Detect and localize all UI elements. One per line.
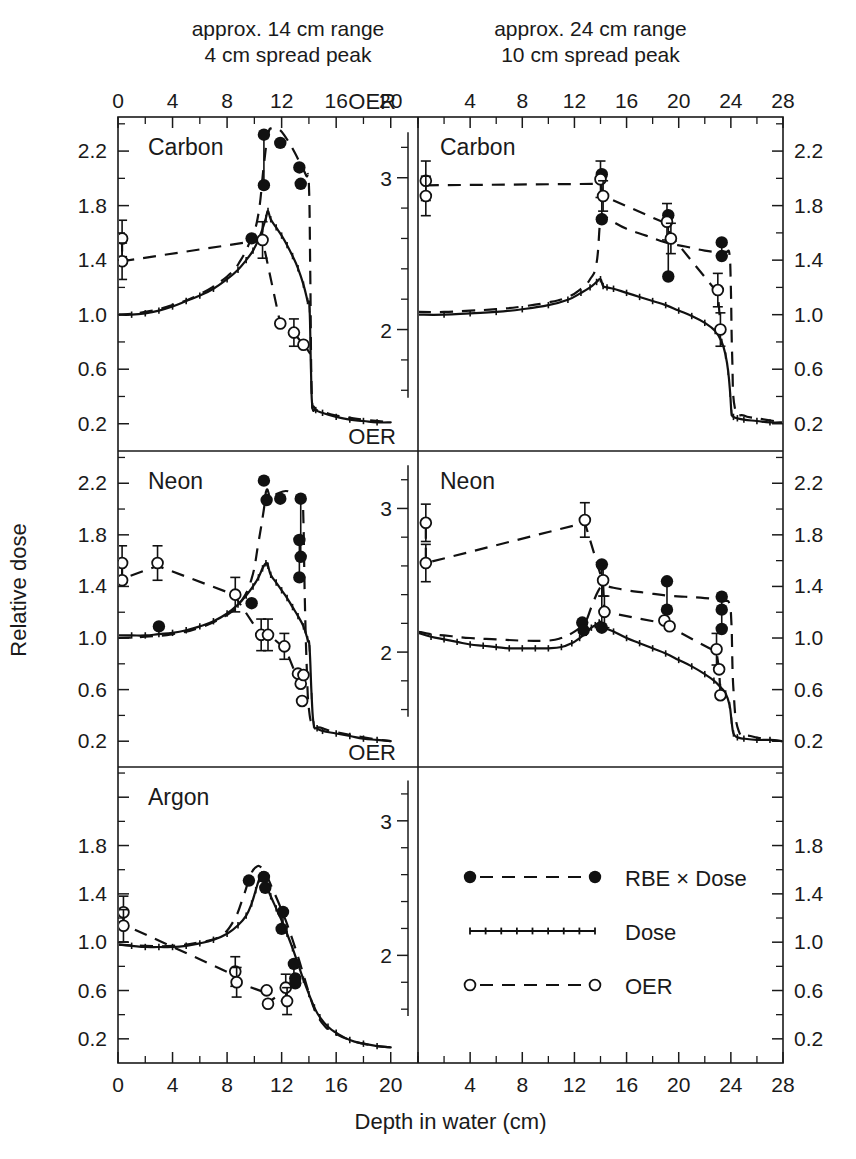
x-tick-label-top: 24 [719,89,743,112]
y-tick-label-left: 1.4 [78,882,108,905]
x-tick-label-top: 12 [270,89,293,112]
rbe-dose-curve [118,489,391,741]
y-tick-label-left: 0.2 [78,729,107,752]
x-tick-label-top: 16 [615,89,638,112]
oer-point [595,174,606,185]
legend-label-0: RBE × Dose [625,866,747,891]
oer-tick-label: 2 [380,319,392,342]
y-tick-label-left: 0.6 [78,979,107,1002]
oer-point [297,696,308,707]
oer-point [714,664,725,675]
dose-curve [418,622,783,741]
x-tick-label-bottom: 12 [270,1073,293,1096]
legend-item-0: RBE × Dose [464,866,747,891]
rbe-dose-point [274,493,286,505]
oer-axis-row0: 23OER [348,89,408,397]
y-tick-label-right: 1.0 [794,303,823,326]
oer-point [598,575,609,586]
oer-point [263,629,274,640]
y-tick-label-left: 1.4 [78,574,108,597]
x-tick-label-top: 4 [167,89,179,112]
x-axis-col1: 448812121616202024242828 [418,89,795,1096]
rbe-dose-point [243,874,255,886]
legend: RBE × DoseDoseOER [464,866,747,999]
x-tick-label-bottom: 4 [167,1073,179,1096]
oer-point [298,670,309,681]
rbe-dose-point [661,603,673,615]
rbe-dose-point [293,161,305,173]
rbe-dose-point [258,474,270,486]
y-axis-title: Relative dose [6,523,31,656]
x-tick-label-bottom: 24 [719,1073,743,1096]
plot-frame-group [118,117,783,1063]
panel-neon-14cm [117,474,391,743]
panel-title-neon-14cm: Neon [148,468,203,494]
rbe-dose-point [596,213,608,225]
column-header-line2-1: 10 cm spread peak [501,43,680,66]
oer-tick-label: 2 [380,641,392,664]
y-tick-label-left: 1.8 [78,194,107,217]
y-axis-row2: 0.20.20.60.61.01.01.41.41.81.8 [78,773,824,1050]
oer-tick-label: 2 [380,944,392,967]
x-tick-label-bottom: 8 [221,1073,233,1096]
rbe-dose-point [258,179,270,191]
y-tick-label-left: 1.0 [78,303,107,326]
rbe-dose-point [295,493,307,505]
legend-label-2: OER [625,974,673,999]
legend-marker-end [589,871,601,883]
rbe-dose-point [716,591,728,603]
x-tick-label-bottom: 20 [379,1073,402,1096]
y-tick-label-right: 1.8 [794,834,823,857]
y-tick-label-right: 1.4 [794,248,824,271]
y-tick-label-left: 2.2 [78,139,107,162]
figure-root: 0044881212161620204488121216162020242428… [0,0,856,1159]
rbe-dose-point [245,232,257,244]
x-tick-label-bottom: 0 [112,1073,124,1096]
rbe-dose-point [153,620,165,632]
oer-point [715,324,726,335]
x-axis-title: Depth in water (cm) [355,1109,547,1134]
y-tick-label-left: 1.4 [78,248,108,271]
x-tick-label-bottom: 4 [464,1073,476,1096]
oer-point [420,558,431,569]
oer-point [599,606,610,617]
y-tick-label-left: 1.8 [78,834,107,857]
x-tick-label-top: 4 [464,89,476,112]
oer-point [118,920,129,931]
legend-item-2: OER [465,974,673,999]
dose-curve [418,279,783,423]
y-tick-label-right: 1.8 [794,523,823,546]
rbe-dose-curve [418,214,783,423]
oer-point [711,644,722,655]
column-header-line2-0: 4 cm spread peak [205,43,372,66]
oer-tick-label: 3 [380,167,392,190]
panel-title-argon-14cm: Argon [148,784,209,810]
x-tick-label-bottom: 16 [325,1073,348,1096]
oer-axis-title: OER [348,424,396,449]
x-tick-label-top: 8 [221,89,233,112]
legend-marker-start [465,980,476,991]
rbe-dose-point [245,597,257,609]
rbe-dose-point [662,270,674,282]
y-tick-label-right: 1.8 [794,194,823,217]
oer-tick-label: 3 [380,497,392,520]
panel-title-neon-24cm: Neon [440,468,495,494]
y-tick-label-left: 1.8 [78,523,107,546]
oer-point [420,191,431,202]
oer-curve [122,238,310,353]
legend-label-1: Dose [625,920,676,945]
column-header-line1-1: approx. 24 cm range [494,17,687,40]
x-tick-label-top: 8 [516,89,528,112]
rbe-dose-point [275,923,287,935]
y-tick-label-right: 0.6 [794,678,823,701]
panel-neon-24cm [418,503,783,743]
rbe-dose-point [716,236,728,248]
y-tick-label-left: 0.2 [78,1027,107,1050]
y-tick-label-right: 1.4 [794,882,824,905]
oer-point [715,690,726,701]
y-tick-label-right: 0.2 [794,1027,823,1050]
oer-point [257,235,268,246]
x-tick-label-top: 20 [667,89,690,112]
oer-point [579,515,590,526]
y-tick-label-right: 0.2 [794,729,823,752]
